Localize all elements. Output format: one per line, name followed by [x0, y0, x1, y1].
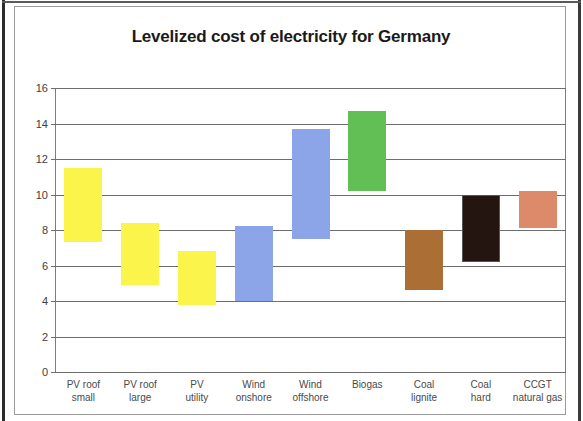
x-axis-category-label: Coal lignite: [396, 378, 453, 404]
gridline: [55, 124, 566, 125]
bar-wind-offshore[interactable]: [292, 129, 330, 239]
chart-screenshot: Levelized cost of electricity for German…: [0, 0, 583, 421]
y-axis-tick-label: 6: [42, 260, 48, 272]
y-axis-tick-label: 10: [36, 189, 48, 201]
y-axis-tickmark: [51, 124, 55, 125]
bar-ccgt-natural-gas[interactable]: [519, 191, 557, 228]
bar-pv-utility[interactable]: [178, 251, 216, 304]
x-axis-category-label: PV utility: [169, 378, 226, 404]
gridline: [55, 337, 566, 338]
page-border-right: [578, 0, 581, 421]
gridline: [55, 301, 566, 302]
x-axis-category-label: Wind onshore: [225, 378, 282, 404]
chart-title: Levelized cost of electricity for German…: [15, 27, 567, 47]
gridline: [55, 88, 566, 89]
y-axis-tickmark: [51, 266, 55, 267]
y-axis-tick-label: 0: [42, 366, 48, 378]
plot-area: 1614121086420PV roof smallPV roof largeP…: [55, 88, 566, 372]
x-axis-category-label: Biogas: [339, 378, 396, 391]
y-axis-tickmark: [51, 159, 55, 160]
gridline: [55, 372, 566, 373]
bar-coal-hard[interactable]: [462, 195, 500, 262]
y-axis-tickmark: [51, 230, 55, 231]
y-axis-tick-label: 12: [36, 153, 48, 165]
y-axis-tick-label: 2: [42, 331, 48, 343]
y-axis-tick-label: 8: [42, 224, 48, 236]
x-axis-category-label: CCGT natural gas: [509, 378, 566, 404]
y-axis-tickmark: [51, 195, 55, 196]
x-axis-category-label: Wind offshore: [282, 378, 339, 404]
y-axis-tickmark: [51, 372, 55, 373]
bar-pv-roof-small[interactable]: [64, 168, 102, 243]
bar-biogas[interactable]: [348, 111, 386, 191]
bar-coal-lignite[interactable]: [405, 230, 443, 290]
y-axis-tickmark: [51, 337, 55, 338]
page-border-top: [2, 1, 581, 3]
y-axis-tick-label: 4: [42, 295, 48, 307]
bar-wind-onshore[interactable]: [235, 226, 273, 301]
x-axis-category-label: Coal hard: [452, 378, 509, 404]
chart-container: Levelized cost of electricity for German…: [14, 6, 566, 415]
x-axis-category-label: PV roof small: [55, 378, 112, 404]
y-axis-tickmark: [51, 301, 55, 302]
bar-pv-roof-large[interactable]: [121, 223, 159, 285]
y-axis-tick-label: 16: [36, 82, 48, 94]
page-border-left: [2, 0, 5, 421]
x-axis-category-label: PV roof large: [112, 378, 169, 404]
y-axis-tickmark: [51, 88, 55, 89]
y-axis-tick-label: 14: [36, 118, 48, 130]
